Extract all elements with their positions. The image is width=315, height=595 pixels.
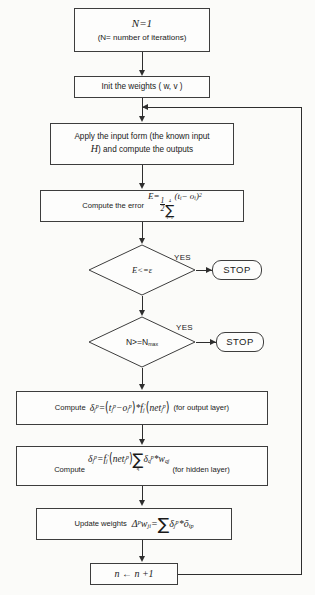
uw-eq: = <box>151 517 158 528</box>
compute-error-formula: E=124∑i=1(ti− oi)2 <box>148 191 202 220</box>
delta-hidden-formula: δjp=fj′(netjp)∑qδqp*wqj <box>88 452 169 472</box>
node-decision-error[interactable]: E<=ε <box>88 244 196 296</box>
node-delta-hidden[interactable]: Compute δjp=fj′(netjp)∑qδqp*wqj (for hid… <box>16 446 268 486</box>
stop-iterations-label: STOP <box>226 336 253 348</box>
stop-error-label: STOP <box>223 264 250 276</box>
edge-label-yes-error: YES <box>174 253 191 262</box>
delta-hidden-tail: (for hidden layer) <box>172 465 229 474</box>
decision-error-shape <box>88 244 196 296</box>
node-compute-error[interactable]: Compute the error E=124∑i=1(ti− oi)2 <box>40 190 244 222</box>
uw-w: w <box>141 517 148 528</box>
uw-o-sub: ip <box>189 522 194 529</box>
apply-input-line2: H) and compute the outputs <box>87 143 197 156</box>
delta-output-lead: Compute <box>55 403 86 412</box>
update-weights-formula: Δpwji=∑δjp*õip <box>132 516 194 532</box>
node-stop-iterations[interactable]: STOP <box>216 332 264 352</box>
feedback-top-segment <box>142 107 301 108</box>
init-counter-line1: N=1 <box>132 17 152 31</box>
flowchart-canvas: N=1 (N= number of iterations) Init the w… <box>0 0 315 595</box>
arrowhead-2 <box>139 116 145 122</box>
error-term-minus: − o <box>182 191 195 201</box>
apply-input-line1: Apply the input form (the known input <box>70 132 213 142</box>
apply-input-line2-rest: ) and compute the outputs <box>98 145 193 154</box>
feedback-bottom-segment <box>178 574 302 575</box>
arrowhead-6 <box>139 384 145 390</box>
node-apply-input[interactable]: Apply the input form (the known input H)… <box>50 123 234 165</box>
arrowhead-3 <box>139 183 145 189</box>
compute-error-lead: Compute the error <box>82 201 144 210</box>
apply-input-variable: H <box>91 143 98 154</box>
arrowhead-7 <box>139 439 145 445</box>
feedback-arrowhead <box>142 104 148 110</box>
node-stop-error[interactable]: STOP <box>212 260 262 280</box>
error-sum-lower: i=1 <box>167 216 173 220</box>
node-delta-output[interactable]: Compute δjp=(tjp−ojp)*fj′(netjp) (for ou… <box>16 391 268 425</box>
edge-label-yes-iterations: YES <box>176 323 193 332</box>
dh-sum-lower: q <box>137 467 139 472</box>
delta-output-tail: (for output layer) <box>173 403 229 412</box>
update-weights-lead: Update weights <box>75 519 127 528</box>
dh-net: net <box>113 454 125 464</box>
init-weights-label: Init the weights ( w, v ) <box>98 82 187 92</box>
do-net: net <box>150 403 162 413</box>
delta-output-formula: δjp=(tjp−ojp)*fj′(netjp) <box>90 402 170 415</box>
error-summation: 4∑i=1 <box>165 199 174 220</box>
arrowhead-9 <box>139 556 145 562</box>
error-term-power: 2 <box>199 192 202 198</box>
delta-hidden-lead: Compute <box>54 465 85 474</box>
connector-1 <box>142 52 143 72</box>
feedback-right-segment <box>301 107 302 574</box>
dh-summation: ∑q <box>133 452 144 472</box>
uw-summation: ∑ <box>158 516 169 532</box>
node-init-counter[interactable]: N=1 (N= number of iterations) <box>74 8 210 52</box>
node-init-weights[interactable]: Init the weights ( w, v ) <box>74 76 210 98</box>
init-counter-line2: (N= number of iterations) <box>94 33 191 43</box>
arrowhead-8 <box>139 500 145 506</box>
node-increment[interactable]: n ← n +1 <box>90 563 178 585</box>
node-update-weights[interactable]: Update weights Δpwji=∑δjp*õip <box>36 508 232 540</box>
dh-w-sub: qj <box>165 458 170 464</box>
increment-label: n ← n +1 <box>114 568 153 581</box>
